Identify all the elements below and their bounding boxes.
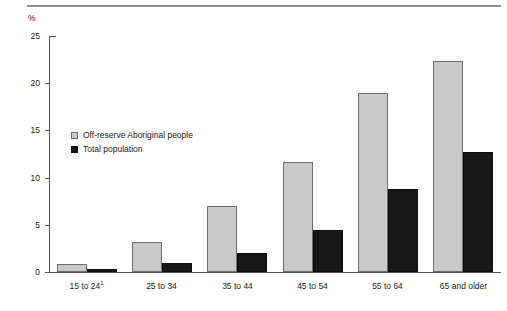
y-axis-tick-label: 25	[0, 32, 40, 41]
y-axis-tick-label: 20	[0, 79, 40, 88]
bar-chart: % 0510152025 15 to 24125 to 3435 to 4445…	[0, 0, 507, 311]
legend-swatch-icon	[71, 132, 78, 139]
bar	[207, 206, 237, 272]
legend-item: Total population	[71, 143, 193, 155]
bar	[463, 152, 493, 272]
footnote-marker: 1	[100, 280, 103, 286]
y-axis-unit-label: %	[28, 13, 36, 23]
x-axis-category-label: 65 and older	[426, 281, 501, 291]
y-axis-tick	[45, 178, 50, 179]
x-axis-category-label: 55 to 64	[350, 281, 425, 291]
bar	[162, 263, 192, 272]
bar	[132, 242, 162, 272]
bar	[87, 269, 117, 272]
bar	[388, 189, 418, 272]
legend-item: Off-reserve Aboriginal people	[71, 129, 193, 141]
y-axis-tick-label: 5	[0, 221, 40, 230]
bar	[358, 93, 388, 272]
bar	[57, 264, 87, 272]
y-axis-tick	[45, 83, 50, 84]
y-axis-tick-label: 15	[0, 126, 40, 135]
x-axis-category-label: 15 to 241	[49, 281, 124, 291]
y-axis-tick	[45, 225, 50, 226]
bar	[313, 230, 343, 272]
y-axis-tick-label: 0	[0, 268, 40, 277]
y-axis-tick-label: 10	[0, 174, 40, 183]
x-axis-category-label: 25 to 34	[124, 281, 199, 291]
x-axis-category-label: 35 to 44	[200, 281, 275, 291]
y-axis-tick	[49, 36, 56, 37]
x-axis-category-label: 45 to 54	[275, 281, 350, 291]
legend-label: Total population	[83, 145, 143, 154]
bar	[283, 162, 313, 272]
legend-swatch-icon	[71, 146, 78, 153]
y-axis-tick	[45, 130, 50, 131]
y-axis-line	[49, 36, 50, 273]
legend-label: Off-reserve Aboriginal people	[83, 131, 193, 140]
bar	[433, 61, 463, 272]
y-axis-tick	[45, 272, 50, 273]
x-axis-line	[49, 272, 501, 273]
chart-legend: Off-reserve Aboriginal peopleTotal popul…	[71, 129, 193, 157]
bar	[237, 253, 267, 272]
